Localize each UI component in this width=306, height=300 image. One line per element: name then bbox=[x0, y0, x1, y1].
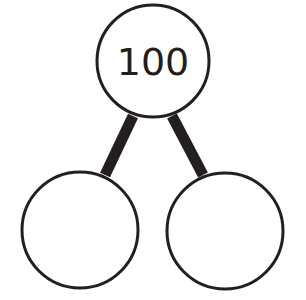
whole-value: 100 bbox=[117, 40, 190, 84]
number-bond-diagram: 100 bbox=[0, 0, 306, 300]
connector-left bbox=[105, 116, 133, 175]
part-node-left bbox=[22, 172, 138, 288]
part-node-right bbox=[167, 173, 283, 289]
connector-right bbox=[172, 116, 203, 175]
whole-node: 100 bbox=[97, 5, 209, 117]
